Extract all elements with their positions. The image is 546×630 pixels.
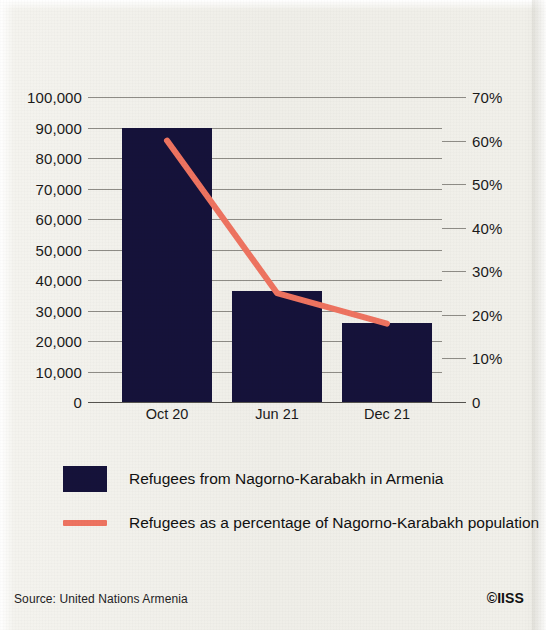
left-axis-tick [88,219,112,220]
right-axis-tick-label: 40% [472,219,502,236]
page-right-edge [532,0,546,630]
page-top-edge [0,0,546,10]
right-axis-tick-label: 50% [472,176,502,193]
x-axis-tick-label: Oct 20 [146,406,189,422]
source-note: Source: United Nations Armenia [14,592,188,606]
right-axis-tick-label: 20% [472,306,502,323]
left-axis-tick [88,189,112,190]
left-axis-tick [88,158,112,159]
line-series [112,97,442,402]
right-axis-tick-label: 0 [472,394,480,411]
right-axis-tick [442,97,466,98]
x-axis-tick-label: Dec 21 [364,406,410,422]
percentage-line [167,141,387,324]
x-axis-tick-label: Jun 21 [255,406,299,422]
left-axis-tick-label: 70,000 [36,180,82,197]
left-axis-tick [88,372,112,373]
left-axis-tick-label: 60,000 [36,211,82,228]
right-axis-tick-label: 30% [472,263,502,280]
legend-line-swatch-icon [63,520,107,526]
left-axis-tick [88,341,112,342]
legend-item-label: Refugees as a percentage of Nagorno-Kara… [129,514,539,532]
left-axis-tick-label: 40,000 [36,272,82,289]
legend-square-swatch-icon [63,466,107,492]
left-axis-tick-label: 30,000 [36,302,82,319]
right-axis-tick-label: 10% [472,350,502,367]
x-axis-line [88,402,466,403]
legend-item-label: Refugees from Nagorno-Karabakh in Armeni… [129,470,443,488]
left-axis-tick [88,250,112,251]
right-axis-tick [442,358,466,359]
left-axis-tick-label: 0 [74,394,82,411]
right-axis-tick [442,184,466,185]
left-axis-tick [88,280,112,281]
right-axis-tick [442,228,466,229]
left-axis-tick-label: 100,000 [27,89,82,106]
left-axis-tick [88,128,112,129]
right-axis-tick-label: 70% [472,89,502,106]
right-axis-tick-label: 60% [472,132,502,149]
chart-legend: Refugees from Nagorno-Karabakh in Armeni… [63,466,523,554]
left-axis-tick [88,97,112,98]
chart-footer: Source: United Nations Armenia ©IISS [14,590,524,606]
right-axis-tick [442,271,466,272]
chart-page: 010,00020,00030,00040,00050,00060,00070,… [0,0,546,630]
chart-plot-area: 010,00020,00030,00040,00050,00060,00070,… [112,97,442,402]
right-axis-tick [442,315,466,316]
copyright-label: ©IISS [487,590,524,606]
legend-item-bars: Refugees from Nagorno-Karabakh in Armeni… [63,466,523,492]
legend-item-line: Refugees as a percentage of Nagorno-Kara… [63,514,523,532]
left-axis-tick-label: 90,000 [36,119,82,136]
left-axis-tick-label: 20,000 [36,333,82,350]
left-axis-tick-label: 50,000 [36,241,82,258]
left-axis-tick-label: 10,000 [36,363,82,380]
right-axis-tick [442,141,466,142]
left-axis-tick [88,311,112,312]
left-axis-tick-label: 80,000 [36,150,82,167]
